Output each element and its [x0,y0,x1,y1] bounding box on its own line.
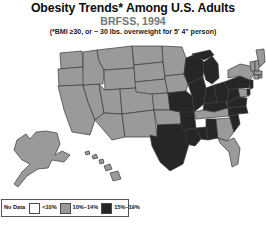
legend-item-no-data: No Data [4,205,25,211]
slide-canvas: Obesity Trends* Among U.S. Adults BRFSS,… [0,0,266,228]
state-mi [203,56,219,84]
legend-item-15-19: 15%–19% [101,203,140,214]
legend-swatch-no-data [29,203,40,214]
state-wy [104,68,136,90]
state-sd [134,62,165,82]
footnote: (*BMI ≥30, or ~ 30 lbs. overweight for 5… [0,28,266,35]
legend-swatch-10-14 [60,203,71,214]
state-nm [122,110,157,137]
state-az [95,113,125,140]
state-ia [165,74,188,93]
legend-label-10-14: 10%–14% [73,205,99,211]
legend-label-lt10: <10% [42,205,56,211]
state-ok [154,110,181,125]
state-ct [254,75,259,79]
legend-label-no-data: No Data [4,205,25,211]
map-svg [0,40,266,198]
state-hi [85,151,121,181]
map-legend: No Data <10% 10%–14% 15%–19% [1,199,129,217]
state-mo [168,91,194,114]
legend-item-lt10: <10% [29,203,56,214]
state-mn [162,46,186,76]
state-wa [60,51,83,69]
state-de [247,89,250,95]
legend-swatch-15-19 [101,203,112,214]
state-ma [254,71,262,75]
state-vt [250,61,255,71]
state-or [58,67,84,86]
legend-label-15-19: 15%–19% [114,205,140,211]
state-fl [218,138,240,167]
page-title: Obesity Trends* Among U.S. Adults [0,1,266,15]
page-subtitle: BRFSS, 1994 [0,15,266,27]
us-choropleth-map [0,40,266,198]
map-states [14,46,265,187]
legend-item-10-14: 10%–14% [60,203,99,214]
state-mt [97,46,134,70]
state-ar [180,112,196,130]
state-ri [259,75,262,78]
state-nj [249,80,253,89]
state-ne [135,79,168,94]
state-ak [14,131,70,187]
state-ks [152,93,170,110]
